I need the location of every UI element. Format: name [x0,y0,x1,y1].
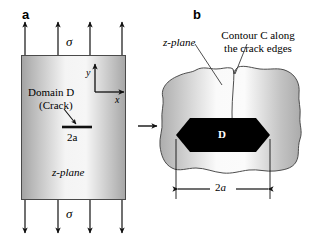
panel-b-domain-label: D [218,129,226,140]
panel-b-crack-length-text: 2a [215,181,226,193]
panel-a-plane-label: z-plane [52,166,84,178]
crack-mechanics-figure: a b σ σ Domain D (Crack) 2a z-plane y x … [0,0,313,244]
panel-a-top-stress-label: σ [66,35,72,48]
panel-a-group [22,22,126,233]
panel-b-contour-label-line1: Contour C along [206,29,310,42]
panel-b-crack-length-label: 2a [215,182,226,193]
panel-a-domain-label-line2: (Crack) [39,99,73,111]
panel-a-bottom-stress-arrows [25,200,122,233]
panel-a-label: a [22,8,29,21]
panel-a-crack-length-label: 2a [67,131,77,143]
panel-b-plane-label: z-plane [163,36,195,48]
panel-a-top-stress-arrows [25,22,122,55]
panel-b-contour-label-line2: the crack edges [206,42,310,55]
panel-b-label: b [193,8,201,21]
panel-a-domain-label-line1: Domain D [28,86,74,98]
panel-b-group [160,44,301,199]
panel-a-axis-y-label: y [86,68,90,78]
panel-a-axis-x-label: x [115,95,119,105]
panel-a-bottom-stress-label: σ [66,207,72,220]
